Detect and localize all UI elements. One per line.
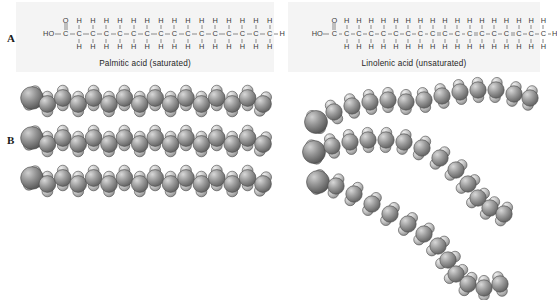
bond-c8-h-top (420, 25, 421, 29)
carbon-sphere-1 (39, 136, 56, 153)
hydrogen-top-4: H (369, 17, 374, 24)
bond-c10-c11 (449, 34, 453, 35)
palmitic-acid-structural-formula: HOOCCCCCCCCCCCCCCCCHHHHHHHHHHHHHHHHHHHHH… (16, 6, 274, 54)
carbon-sphere-2 (342, 134, 358, 150)
bond-c14-h-top (242, 25, 243, 29)
hydrogen-top-2: H (77, 17, 82, 24)
hydrogen-bottom-13: H (479, 43, 484, 50)
hydrogen-top-16: H (267, 17, 272, 24)
carboxyl-sphere (303, 141, 326, 164)
hydrogen-top-10: H (185, 17, 190, 24)
bond-c5-h-top (383, 25, 384, 29)
hydrogen-top-14: H (240, 17, 245, 24)
terminal-hydrogen-label: H (280, 30, 285, 37)
carbon-sphere-4 (380, 92, 396, 108)
bond-c9-h-top (432, 25, 433, 29)
hydrogen-top-6: H (131, 17, 136, 24)
carbon-sphere-5 (101, 176, 118, 193)
bond-c14-c15 (247, 34, 252, 35)
carbon-sphere-11 (193, 176, 210, 193)
hydrogen-bottom-17: H (528, 43, 533, 50)
carbon-sphere-5 (398, 94, 414, 110)
carbonyl-oxygen-label: O (331, 17, 337, 24)
hydrogen-bottom-9: H (172, 43, 177, 50)
hydrogen-top-12: H (467, 17, 472, 24)
carbon-sphere-11 (193, 96, 210, 113)
carbon-atom-6: C (393, 30, 398, 37)
saturated-chain-3 (21, 165, 272, 197)
carbon-sphere-12 (496, 206, 512, 222)
carbon-atom-10: C (442, 30, 447, 37)
bond-c6-h-top (395, 25, 396, 29)
hydrogen-top-15: H (504, 17, 509, 24)
hydrogen-bottom-7: H (405, 43, 410, 50)
carbon-atom-2: C (344, 30, 349, 37)
bond-c11-c12 (206, 34, 211, 35)
bond-c17-h-top (531, 25, 532, 29)
hydrogen-bottom-5: H (117, 43, 122, 50)
carbon-sphere-5 (101, 136, 118, 153)
hydrogen-top-11: H (455, 17, 460, 24)
carbon-sphere-14 (239, 90, 256, 107)
hydrogen-top-9: H (430, 17, 435, 24)
carbon-atom-6: C (131, 30, 136, 37)
hydrogen-bottom-12: H (467, 43, 472, 50)
carbon-sphere-4 (85, 90, 102, 107)
carbon-atom-2: C (77, 30, 82, 37)
carbon-atom-7: C (405, 30, 410, 37)
carbon-sphere-2 (344, 98, 360, 114)
bond-c8-h-top (160, 25, 161, 29)
bond-c1-c2 (339, 34, 343, 35)
carbon-sphere-8 (440, 252, 456, 268)
carbon-sphere-10 (178, 130, 195, 147)
carbon-sphere-6 (116, 90, 133, 107)
hydrogen-top-6: H (393, 17, 398, 24)
carbon-sphere-7 (131, 136, 148, 153)
palmitic-acid-formula-panel: HOOCCCCCCCCCCCCCCCCHHHHHHHHHHHHHHHHHHHHH… (16, 2, 274, 72)
hydrogen-bottom-15: H (253, 43, 258, 50)
carbon-atom-14: C (240, 30, 245, 37)
bond-c15-h-top (506, 25, 507, 29)
carbon-sphere-6 (116, 130, 133, 147)
bond-ho-c1 (323, 34, 329, 35)
carbon-atom-14: C (492, 30, 497, 37)
carbon-sphere-6 (416, 92, 432, 108)
bond-c15-h-top (256, 25, 257, 29)
hydrogen-bottom-14: H (240, 43, 245, 50)
carbon-sphere-3 (364, 196, 380, 212)
hydrogen-bottom-18: H (541, 43, 546, 50)
carbon-sphere-8 (147, 130, 164, 147)
carbon-atom-11: C (455, 30, 460, 37)
hydrogen-bottom-13: H (226, 43, 231, 50)
carbon-atom-18: C (541, 30, 546, 37)
saturated-space-filling-model (22, 80, 294, 210)
hydrogen-top-5: H (381, 17, 386, 24)
palmitic-acid-caption: Palmitic acid (saturated) (16, 59, 274, 68)
carbon-sphere-3 (70, 96, 87, 113)
bond-c4-h-top (106, 25, 107, 29)
bond-c6-c7 (400, 34, 404, 35)
carbon-sphere-10 (178, 170, 195, 187)
carbon-sphere-9 (460, 176, 476, 192)
carbon-sphere-4 (378, 132, 394, 148)
carbon-sphere-1 (324, 138, 340, 154)
bond-c6-h-top (133, 25, 134, 29)
bond-c2-h-top (346, 25, 347, 29)
bond-c13-c14 (233, 34, 238, 35)
unsaturated-chain-3 (307, 170, 509, 300)
carbon-sphere-12 (208, 130, 225, 147)
carbon-sphere-6 (416, 226, 432, 242)
carbonyl-oxygen-label: O (63, 17, 69, 24)
bond-c2-c3 (351, 34, 355, 35)
hydrogen-top-7: H (405, 17, 410, 24)
panel-label-b: B (7, 134, 14, 146)
carbon-sphere-10 (460, 276, 476, 292)
hydrogen-top-10: H (442, 17, 447, 24)
hydrogen-bottom-8: H (158, 43, 163, 50)
bond-c17-c18 (535, 34, 539, 35)
bond-c12-h-top (469, 25, 470, 29)
bond-c16-h-top (269, 25, 270, 29)
carbon-sphere-9 (162, 176, 179, 193)
hydrogen-bottom-16: H (516, 43, 521, 50)
hydrogen-top-9: H (172, 17, 177, 24)
